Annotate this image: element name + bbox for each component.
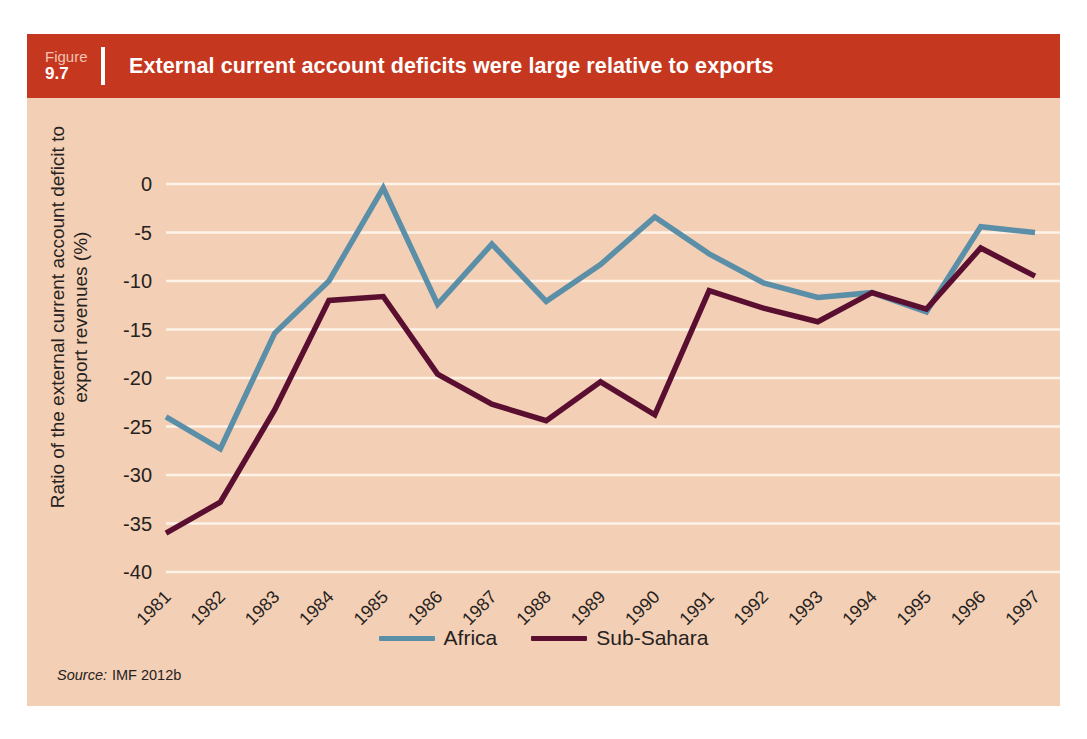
legend-item-africa[interactable]: Africa xyxy=(379,626,498,650)
figure-number: 9.7 xyxy=(45,65,101,83)
x-axis-tick-label: 1988 xyxy=(513,587,555,629)
chart-region: Ratio of the external current account de… xyxy=(27,98,1060,706)
figure-title: External current account deficits were l… xyxy=(129,54,773,79)
legend-swatch-icon xyxy=(379,636,435,641)
x-axis-tick-label: 1992 xyxy=(730,587,772,629)
y-axis-tick-label: -5 xyxy=(134,222,152,244)
x-axis-tick-label: 1994 xyxy=(838,587,880,629)
x-axis-tick-label: 1997 xyxy=(1001,587,1043,629)
y-axis-tick-label: -30 xyxy=(123,464,152,486)
x-axis-tick-label: 1995 xyxy=(893,587,935,629)
x-axis-tick-label: 1984 xyxy=(295,587,337,629)
x-axis-tick-label: 1981 xyxy=(132,587,174,629)
chart-legend: AfricaSub-Sahara xyxy=(27,626,1060,650)
y-axis-tick-label: -15 xyxy=(123,319,152,341)
x-axis-tick-label: 1985 xyxy=(350,587,392,629)
series-line-africa xyxy=(166,188,1035,449)
y-axis-tick-label: -10 xyxy=(123,270,152,292)
y-axis-tick-label: 0 xyxy=(141,173,152,195)
figure-card: Figure 9.7 External current account defi… xyxy=(27,34,1060,706)
y-axis-tick-label: -35 xyxy=(123,513,152,535)
header-divider-rule xyxy=(101,47,105,85)
x-axis-tick-label: 1991 xyxy=(675,587,717,629)
series-lines-group xyxy=(166,188,1035,533)
x-axis-tick-label: 1996 xyxy=(947,587,989,629)
x-axis-tick-label: 1993 xyxy=(784,587,826,629)
figure-number-block: Figure 9.7 xyxy=(27,49,101,84)
x-axis-tick-label: 1987 xyxy=(458,587,500,629)
source-text: IMF 2012b xyxy=(112,667,181,683)
series-line-sub-sahara xyxy=(166,248,1035,533)
gridlines-group xyxy=(166,184,1060,572)
x-axis-tick-label: 1990 xyxy=(621,587,663,629)
y-axis-tick-label: -25 xyxy=(123,416,152,438)
y-axis-tick-label: -20 xyxy=(123,367,152,389)
legend-item-sub-sahara[interactable]: Sub-Sahara xyxy=(531,626,708,650)
x-axis-tick-label: 1983 xyxy=(241,587,283,629)
legend-label: Africa xyxy=(444,626,498,650)
y-axis-tick-label: -40 xyxy=(123,561,152,583)
x-axis-tick-label: 1982 xyxy=(187,587,229,629)
line-chart-plot: 0-5-10-15-20-25-30-35-40 198119821983198… xyxy=(27,98,1060,638)
source-note: Source:IMF 2012b xyxy=(57,667,181,683)
legend-swatch-icon xyxy=(531,636,587,641)
x-axis-tick-label: 1989 xyxy=(567,587,609,629)
figure-label-word: Figure xyxy=(45,49,101,65)
figure-header-bar: Figure 9.7 External current account defi… xyxy=(27,34,1060,98)
x-axis-tick-label: 1986 xyxy=(404,587,446,629)
source-label: Source: xyxy=(57,667,107,683)
x-axis-tick-labels: 1981198219831984198519861987198819891990… xyxy=(132,587,1043,629)
legend-label: Sub-Sahara xyxy=(596,626,708,650)
y-axis-tick-labels: 0-5-10-15-20-25-30-35-40 xyxy=(123,173,152,583)
